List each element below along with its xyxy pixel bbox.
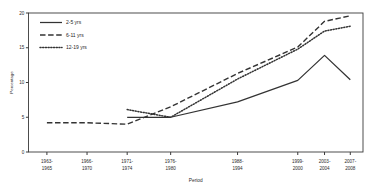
x-axis-title: Period (189, 178, 203, 183)
x-axis-tick-label: 2008 (345, 166, 356, 171)
series-line-2-5-yrs (127, 55, 350, 117)
y-axis-tick-label: 10 (19, 80, 25, 85)
x-axis-tick-label: 2000 (293, 166, 304, 171)
x-axis-tick-label: 1994 (232, 166, 243, 171)
x-axis-tick-label: 2007- (344, 159, 356, 164)
x-axis-tick-label: 1971- (121, 159, 133, 164)
y-axis-title: Percentage (9, 71, 14, 94)
y-axis-tick-label: 0 (22, 150, 25, 155)
x-axis-tick-label: 1970 (82, 166, 93, 171)
x-axis-tick-label: 2004 (319, 166, 330, 171)
x-axis-tick-label: 1976- (165, 159, 177, 164)
legend-label: 2-5 yrs (66, 19, 82, 25)
y-axis-tick-label: 15 (19, 45, 25, 50)
y-axis-tick-label: 5 (22, 115, 25, 120)
x-axis-tick-label: 1965 (42, 166, 53, 171)
chart-canvas: 05101520Percentage1963-19651966-19701971… (0, 0, 372, 184)
series-line-6-11-yrs (47, 16, 350, 124)
line-chart: 05101520Percentage1963-19651966-19701971… (0, 0, 372, 184)
x-axis-tick-label: 1980 (166, 166, 177, 171)
x-axis-tick-label: 2003- (319, 159, 331, 164)
x-axis-tick-label: 1974 (122, 166, 133, 171)
x-axis-tick-label: 1988- (232, 159, 244, 164)
series-line-12-19-yrs (127, 26, 350, 117)
x-axis-tick-label: 1966- (81, 159, 93, 164)
x-axis-tick-label: 1963- (41, 159, 53, 164)
x-axis-tick-label: 1999- (292, 159, 304, 164)
legend-label: 12-19 yrs (66, 44, 87, 50)
y-axis-tick-label: 20 (19, 11, 25, 16)
legend-label: 6-11 yrs (66, 32, 84, 38)
